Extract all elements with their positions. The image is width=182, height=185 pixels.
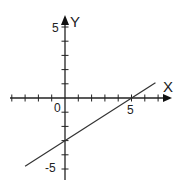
data-line <box>25 83 155 166</box>
origin-label: 0 <box>54 101 61 115</box>
coordinate-plane: Y X 0 5 5 -5 <box>0 0 182 185</box>
y-tick-label-5: 5 <box>52 21 59 35</box>
y-axis-arrow-icon <box>61 15 69 25</box>
y-axis-label: Y <box>70 13 80 30</box>
x-axis-label: X <box>163 78 173 95</box>
x-axis-arrow-icon <box>163 94 172 102</box>
x-tick-label-5: 5 <box>127 103 134 117</box>
y-tick-label-minus-5: -5 <box>45 161 56 175</box>
